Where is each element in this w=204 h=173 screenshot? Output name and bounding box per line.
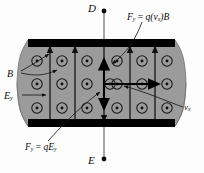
fb-equals: =: [138, 12, 143, 22]
magnetic-field-label: B: [7, 69, 13, 79]
electric-field-label: Ey: [4, 91, 13, 102]
terminal-label-d: D: [88, 3, 96, 14]
ey-subscript: y: [10, 94, 13, 101]
fe-rhs: qEy: [44, 142, 57, 152]
drift-velocity-label: vx: [184, 103, 190, 113]
fe-subscript: y: [31, 146, 34, 152]
magnetic-force-equation: Fy = q(vx)B: [127, 13, 169, 23]
electric-force-equation: Fy = qEy: [25, 143, 57, 153]
bottom-plate: [28, 119, 175, 127]
top-plate: [28, 39, 175, 47]
fe-rhs-subscript: y: [54, 146, 57, 152]
terminal-dot-e: [102, 157, 107, 162]
vx-subscript: x: [188, 106, 190, 112]
fb-rhs: q(vx)B: [146, 12, 170, 22]
terminal-dot-d: [102, 9, 107, 14]
fb-rhs-subscript: x: [158, 16, 161, 22]
fe-equals: =: [36, 142, 41, 152]
hall-effect-figure: D E B Ey vx Fy = q(vx)B Fy = qEy: [0, 0, 204, 173]
fb-subscript: y: [133, 16, 136, 22]
terminal-label-e: E: [88, 155, 95, 166]
